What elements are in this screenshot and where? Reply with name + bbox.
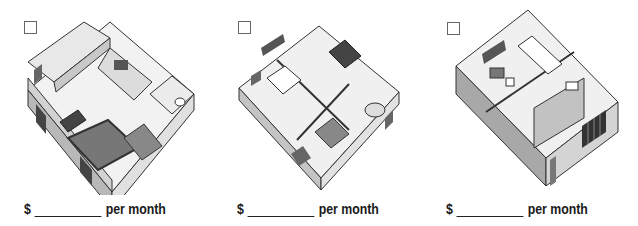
rent-input-two-bedroom[interactable] — [247, 202, 314, 217]
currency-symbol: $ — [24, 201, 31, 217]
apartment-card-one-bedroom: $ per month — [426, 0, 638, 226]
per-month-label: per month — [106, 201, 166, 217]
per-month-label: per month — [319, 201, 379, 217]
apartment-card-two-bedroom: $ per month — [213, 0, 426, 226]
apartment-card-studio: $ per month — [0, 0, 213, 226]
rent-input-studio[interactable] — [34, 202, 101, 217]
currency-symbol: $ — [446, 201, 453, 217]
rent-row-studio: $ per month — [24, 199, 166, 217]
two-bedroom-floorplan-icon — [237, 22, 407, 192]
per-month-label: per month — [528, 201, 588, 217]
rent-row-two-bedroom: $ per month — [237, 199, 379, 217]
one-bedroom-floorplan-icon — [454, 8, 620, 186]
rent-input-one-bedroom[interactable] — [456, 202, 523, 217]
rent-row-one-bedroom: $ per month — [446, 199, 588, 217]
currency-symbol: $ — [237, 201, 244, 217]
studio-floorplan-icon — [22, 20, 198, 195]
